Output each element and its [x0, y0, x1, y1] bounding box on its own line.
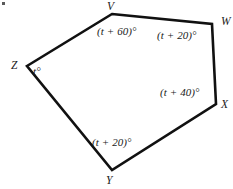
geometry-figure: V W X Y Z (t + 60)° (t + 20)° (t + 40)° … — [0, 0, 233, 189]
vertex-label-z: Z — [11, 60, 18, 72]
vertex-label-y: Y — [106, 175, 113, 187]
angle-label-z: t° — [33, 66, 41, 77]
vertex-label-v: V — [107, 1, 114, 13]
vertex-label-x: X — [221, 99, 228, 111]
angle-label-y: (t + 20)° — [92, 137, 132, 148]
angle-label-w: (t + 20)° — [157, 30, 197, 41]
angle-label-x: (t + 40)° — [160, 87, 200, 98]
vertex-label-w: W — [221, 16, 231, 28]
angle-label-v: (t + 60)° — [97, 26, 137, 37]
